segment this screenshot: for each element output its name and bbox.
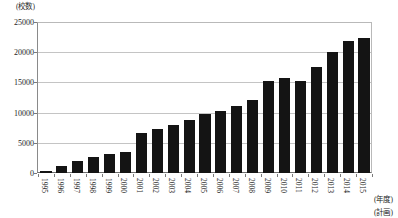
x-axis-tick-label: 1997 (72, 178, 81, 193)
bar-fill (168, 125, 179, 173)
x-axis-tick-mark (70, 174, 71, 177)
bar (136, 22, 147, 173)
x-axis-tick-label: 2001 (135, 178, 144, 193)
bar (120, 22, 131, 173)
bar-fill (88, 157, 99, 173)
x-axis-tick-mark (261, 174, 262, 177)
bar-fill (295, 81, 306, 173)
x-axis-tick-label: 2004 (183, 178, 192, 193)
y-axis-tick-label: 20000 (14, 48, 34, 57)
x-axis-tick-label: 2007 (231, 178, 240, 193)
bar-fill (263, 81, 274, 173)
bar-fill (120, 152, 131, 173)
bar-fill (327, 52, 338, 173)
bar (215, 22, 226, 173)
x-axis-tick-mark (229, 174, 230, 177)
x-axis-tick-mark (102, 174, 103, 177)
x-axis-tick-label: 1996 (56, 178, 65, 193)
bar-fill (104, 154, 115, 173)
x-axis: 1995199619971998199920002001200220032004… (38, 174, 372, 218)
x-axis-tick-label: 2002 (151, 178, 160, 193)
x-axis-tick-mark (54, 174, 55, 177)
x-axis-tick-label: 2000 (119, 178, 128, 193)
x-axis-tick-label: 2006 (215, 178, 224, 193)
y-axis-tick-label: 15000 (14, 78, 34, 87)
bar-fill (152, 129, 163, 173)
x-axis-tick-label: 2014 (342, 178, 351, 193)
y-axis-unit-label: (校数) (16, 0, 35, 11)
bar (343, 22, 354, 173)
x-axis-caption-year: (年度) (374, 193, 393, 204)
bar-series (38, 22, 372, 173)
bar (263, 22, 274, 173)
bar (279, 22, 290, 173)
x-axis-tick-mark (38, 174, 39, 177)
bar (72, 22, 83, 173)
bar (231, 22, 242, 173)
x-axis-tick-mark (213, 174, 214, 177)
bar-fill (136, 133, 147, 173)
y-axis: 0500010000150002000025000 (0, 22, 34, 173)
bar-fill (40, 171, 51, 173)
bar-fill (184, 120, 195, 173)
x-axis-tick-mark (181, 174, 182, 177)
x-axis-tick-label: 1999 (104, 178, 113, 193)
bar (199, 22, 210, 173)
x-axis-tick-mark (245, 174, 246, 177)
x-axis-tick-mark (324, 174, 325, 177)
bar-fill (199, 114, 210, 173)
x-axis-tick-label: 2005 (199, 178, 208, 193)
x-axis-tick-mark (86, 174, 87, 177)
x-axis-tick-label: 2012 (310, 178, 319, 193)
x-axis-tick-label: 2011 (294, 178, 303, 193)
bar (358, 22, 369, 173)
bar-chart: (校数) 0500010000150002000025000 199519961… (0, 0, 398, 218)
x-axis-caption-plan: (計画) (374, 206, 393, 217)
x-axis-tick-mark (308, 174, 309, 177)
bar-fill (343, 41, 354, 173)
y-axis-tick-label: 5000 (18, 138, 34, 147)
bar-fill (311, 67, 322, 173)
x-axis-tick-mark (197, 174, 198, 177)
x-axis-tick-label: 2010 (279, 178, 288, 193)
bar (184, 22, 195, 173)
bar (104, 22, 115, 173)
bar (152, 22, 163, 173)
bar (56, 22, 67, 173)
x-axis-tick-mark (133, 174, 134, 177)
x-axis-tick-mark (277, 174, 278, 177)
bar (311, 22, 322, 173)
bar (168, 22, 179, 173)
bar-fill (56, 166, 67, 173)
x-axis-tick-label: 2003 (167, 178, 176, 193)
bar (295, 22, 306, 173)
bar-fill (247, 100, 258, 173)
x-axis-tick-mark (118, 174, 119, 177)
bar-fill (358, 38, 369, 173)
x-axis-tick-mark (372, 174, 373, 177)
bar (40, 22, 51, 173)
x-axis-tick-label: 2015 (358, 178, 367, 193)
bar-fill (215, 111, 226, 173)
y-axis-tick-label: 10000 (14, 108, 34, 117)
bar (88, 22, 99, 173)
bar-fill (72, 161, 83, 173)
bar (327, 22, 338, 173)
x-axis-tick-label: 2009 (263, 178, 272, 193)
x-axis-tick-mark (149, 174, 150, 177)
x-axis-tick-mark (356, 174, 357, 177)
x-axis-tick-mark (165, 174, 166, 177)
y-axis-tick-mark (34, 173, 37, 174)
y-axis-tick-label: 25000 (14, 18, 34, 27)
x-axis-tick-label: 1995 (40, 178, 49, 193)
x-axis-tick-label: 2008 (247, 178, 256, 193)
x-axis-tick-label: 1998 (88, 178, 97, 193)
bar (247, 22, 258, 173)
x-axis-tick-mark (292, 174, 293, 177)
x-axis-tick-label: 2013 (326, 178, 335, 193)
x-axis-tick-mark (340, 174, 341, 177)
bar-fill (231, 106, 242, 173)
bar-fill (279, 78, 290, 173)
